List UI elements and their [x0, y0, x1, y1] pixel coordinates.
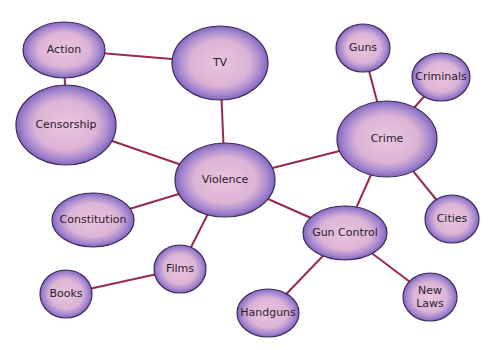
- node-label: Gun Control: [312, 226, 378, 239]
- nodes-layer: ActionTVCensorshipViolenceGunsCriminalsC…: [16, 22, 479, 337]
- node-label: Handguns: [240, 306, 296, 319]
- node-label: Crime: [371, 132, 404, 145]
- node-cities: Cities: [425, 195, 479, 243]
- node-label: New: [418, 284, 442, 297]
- node-crime: Crime: [337, 101, 437, 177]
- node-label: Laws: [416, 297, 444, 310]
- node-tv: TV: [172, 26, 268, 100]
- node-handguns: Handguns: [237, 289, 299, 337]
- node-censorship: Censorship: [16, 85, 116, 165]
- node-label: Constitution: [60, 213, 127, 226]
- node-violence: Violence: [175, 143, 275, 217]
- node-label: Censorship: [35, 118, 96, 131]
- node-label: Action: [47, 43, 81, 56]
- node-constitution: Constitution: [52, 193, 134, 247]
- node-books: Books: [40, 270, 92, 318]
- node-films: Films: [154, 245, 206, 293]
- node-guns: Guns: [336, 24, 390, 72]
- node-criminals: Criminals: [412, 53, 470, 101]
- concept-map: ActionTVCensorshipViolenceGunsCriminalsC…: [0, 0, 491, 350]
- node-label: Films: [166, 262, 194, 275]
- node-label: TV: [212, 56, 228, 69]
- node-label: Cities: [437, 212, 468, 225]
- node-label: Books: [49, 287, 82, 300]
- node-action: Action: [23, 22, 105, 78]
- node-label: Criminals: [415, 70, 467, 83]
- node-label: Guns: [349, 41, 377, 54]
- node-label: Violence: [202, 173, 249, 186]
- node-new-laws: NewLaws: [403, 273, 457, 321]
- node-gun-control: Gun Control: [303, 206, 387, 260]
